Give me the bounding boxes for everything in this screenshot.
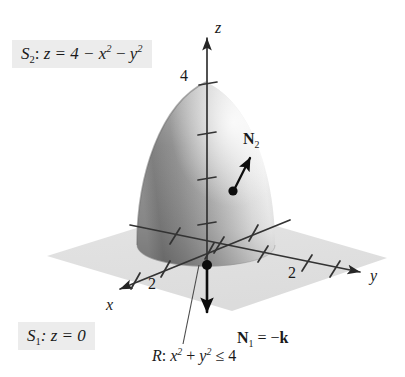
label-n2-vector: N xyxy=(243,130,255,147)
label-normal-n2: N2 xyxy=(243,131,260,147)
label-s1-name: S xyxy=(27,326,36,345)
label-s2-equation-lead: z = 4 − xyxy=(44,44,99,63)
label-n1-unit-vector: k xyxy=(280,329,289,346)
parabolo id-flux-figure: S2: z = 4 − x2 − y2 S1: z = 0 R: x2 + y2… xyxy=(0,0,405,377)
label-r-relation: ≤ 4 xyxy=(211,347,236,364)
label-s2-name: S xyxy=(21,44,30,63)
label-r-colon: : xyxy=(162,347,170,364)
axis-tick-label-x-2: 2 xyxy=(148,276,156,292)
label-r-plus: + xyxy=(182,347,199,364)
axis-label-z: z xyxy=(215,20,221,36)
axis-tick-label-z-4: 4 xyxy=(180,68,188,84)
label-surface-s2: S2: z = 4 − x2 − y2 xyxy=(12,40,152,68)
label-n1-equation: = − xyxy=(254,329,280,346)
label-surface-s1: S1: z = 0 xyxy=(18,322,95,350)
axis-tick-label-y-2: 2 xyxy=(288,265,296,281)
axis-label-x: x xyxy=(106,297,113,313)
paraboloid-surface-s2 xyxy=(137,82,275,266)
label-normal-n1: N1 = −k xyxy=(237,330,288,346)
label-s1-equation: : z = 0 xyxy=(41,326,86,345)
axis-label-y: y xyxy=(370,268,377,284)
label-region-r: R: x2 + y2 ≤ 4 xyxy=(152,348,236,364)
label-r-name: R xyxy=(152,347,162,364)
label-n2-subscript: 2 xyxy=(255,139,260,150)
label-s2-exp-y: 2 xyxy=(137,43,142,54)
label-s2-minus: − xyxy=(112,44,130,63)
label-s2-colon: : xyxy=(35,44,44,63)
label-n1-vector: N xyxy=(237,329,249,346)
